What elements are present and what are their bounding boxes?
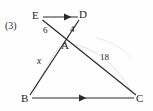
- vertex-label-A: A: [61, 40, 69, 51]
- item-number: (3): [5, 21, 17, 31]
- geometry-figure: (3) E D A B C 6 4 x 18: [0, 0, 153, 111]
- segment-length-AD: 4: [70, 25, 75, 34]
- vertex-label-E: E: [32, 10, 39, 21]
- vertex-label-B: B: [21, 93, 28, 104]
- vertex-label-C: C: [136, 93, 143, 104]
- segment-length-AB: x: [37, 57, 41, 67]
- arrow-ED: [64, 13, 72, 20]
- segment-length-AC: 18: [100, 53, 109, 62]
- vertex-label-D: D: [79, 9, 87, 20]
- segment-EC: [43, 20, 137, 95]
- arrow-BC: [79, 94, 87, 101]
- segment-length-EA: 6: [43, 26, 48, 35]
